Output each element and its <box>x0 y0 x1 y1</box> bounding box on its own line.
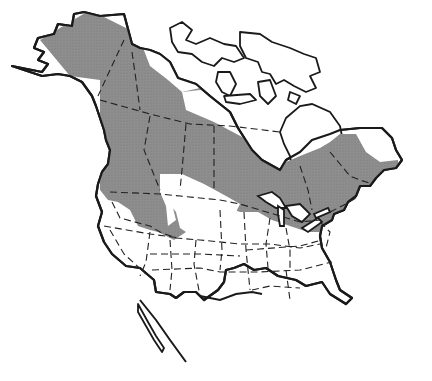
range-map <box>0 0 432 381</box>
baja-california <box>138 304 164 352</box>
mexico-coast <box>140 292 262 362</box>
